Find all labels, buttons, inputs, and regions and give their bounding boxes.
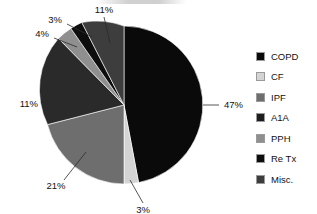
slice-label-pph: 4% (35, 28, 49, 39)
slice-label-retx: 3% (48, 14, 62, 25)
legend-label-retx: Re Tx (271, 154, 296, 164)
legend-item-copd[interactable]: COPD (256, 46, 316, 67)
pie-chart-figure: 47% 3% 21% 11% 4% 3% 11% COPD CF IPF A1A… (0, 0, 317, 214)
legend-item-cf[interactable]: CF (256, 67, 316, 88)
pie-slices (39, 21, 202, 184)
slice-label-misc: 11% (95, 4, 114, 15)
slice-label-a1a: 11% (20, 98, 39, 109)
legend-item-misc[interactable]: Misc. (256, 169, 316, 190)
chart-legend: COPD CF IPF A1A PPH Re Tx Misc. (256, 46, 316, 190)
legend-swatch-retx (256, 154, 265, 163)
legend-item-retx[interactable]: Re Tx (256, 149, 316, 170)
slice-label-cf: 3% (136, 204, 150, 214)
legend-label-cf: CF (271, 72, 284, 82)
slice-label-copd: 47% (224, 99, 244, 110)
legend-label-pph: PPH (271, 134, 291, 144)
legend-swatch-cf (256, 72, 265, 81)
legend-label-ipf: IPF (271, 93, 286, 103)
legend-swatch-pph (256, 134, 265, 143)
legend-swatch-copd (256, 52, 265, 61)
legend-item-ipf[interactable]: IPF (256, 87, 316, 108)
slice-label-ipf: 21% (46, 180, 66, 191)
legend-label-misc: Misc. (271, 175, 293, 185)
legend-swatch-misc (256, 175, 265, 184)
legend-item-pph[interactable]: PPH (256, 128, 316, 149)
legend-swatch-ipf (256, 93, 265, 102)
legend-swatch-a1a (256, 113, 265, 122)
legend-item-a1a[interactable]: A1A (256, 108, 316, 129)
pie-slice-copd[interactable] (124, 26, 203, 183)
legend-label-copd: COPD (271, 52, 298, 62)
leader-line-cf (130, 180, 143, 203)
legend-label-a1a: A1A (271, 113, 289, 123)
